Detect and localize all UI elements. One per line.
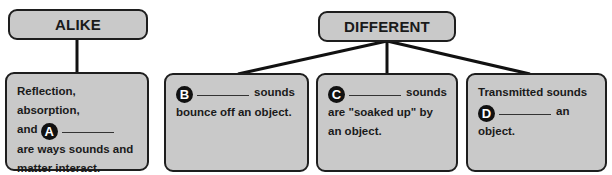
different-box-d: Transmitted sounds Dan object. — [466, 73, 607, 172]
alike-pre: and — [17, 123, 37, 135]
d-after: an — [556, 105, 569, 117]
different-box-b: Bsounds bounce off an object. — [164, 73, 309, 172]
alike-box: Reflection, absorption, and A are ways s… — [5, 72, 149, 171]
d-pre: Transmitted sounds — [478, 83, 597, 102]
alike-line1: Reflection, absorption, — [17, 82, 139, 120]
different-box-c: Csounds are "soaked up" by an object. — [316, 73, 458, 172]
blank-d[interactable] — [499, 104, 551, 115]
different-header: DIFFERENT — [318, 11, 456, 42]
badge-b: B — [176, 86, 193, 103]
d-rest: object. — [478, 122, 597, 141]
blank-a[interactable] — [62, 122, 114, 133]
blank-c[interactable] — [349, 85, 401, 96]
badge-a: A — [41, 123, 58, 140]
different-header-label: DIFFERENT — [344, 18, 430, 35]
badge-c: C — [328, 86, 345, 103]
alike-header-label: ALIKE — [55, 16, 101, 33]
badge-d: D — [478, 105, 495, 122]
b-rest: bounce off an object. — [176, 103, 299, 122]
blank-b[interactable] — [197, 85, 249, 96]
alike-line4: matter interact. — [17, 159, 139, 175]
b-after: sounds — [254, 86, 295, 98]
alike-header: ALIKE — [8, 9, 148, 40]
alike-line3: are ways sounds and — [17, 140, 139, 159]
c-after: sounds — [406, 86, 447, 98]
c-rest: are "soaked up" by an object. — [328, 103, 446, 141]
